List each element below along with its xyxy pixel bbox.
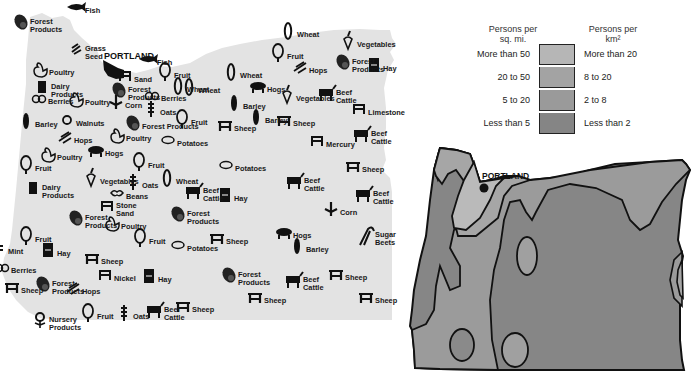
- product-label: Limestone: [368, 108, 405, 117]
- product-label: Corn: [340, 208, 358, 217]
- product-label: Hogs: [267, 85, 285, 94]
- barley-icon: [253, 109, 259, 125]
- dairy-icon: [29, 182, 37, 194]
- barley-icon: [231, 95, 237, 111]
- product-label: Mercury: [326, 140, 356, 149]
- product-label: Barley: [35, 120, 58, 129]
- product-label: Fruit: [149, 237, 166, 246]
- product-label: Fruit: [174, 71, 191, 80]
- product-label: Sheep: [362, 165, 385, 174]
- product-label: Hops: [309, 66, 327, 75]
- product-label: Sheep: [375, 296, 398, 305]
- product-label: SugarBeets: [375, 230, 396, 247]
- barley-icon: [294, 238, 300, 254]
- product-label: Sheep: [293, 119, 316, 128]
- product-label: Fish: [85, 6, 101, 15]
- density-island-2: [450, 329, 474, 361]
- product-label: Hay: [234, 194, 248, 203]
- product-label: Vegetables: [296, 94, 335, 103]
- product-label: Oats: [142, 181, 158, 190]
- product-label: Wheat: [297, 30, 320, 39]
- product-label: Sheep: [21, 286, 44, 295]
- products-map: FishForestProductsGrassSeedPoultryDairyP…: [0, 0, 420, 382]
- product-label: Oats: [133, 312, 149, 321]
- product-label: Fruit: [97, 312, 114, 321]
- product-label: Poultry: [121, 222, 147, 231]
- product-label: Berries: [48, 97, 73, 106]
- legend-header-km2: Persons per km²: [578, 25, 648, 44]
- product-label: Fruit: [148, 161, 165, 170]
- log-icon: [12, 12, 30, 32]
- product-label: Mint: [8, 247, 24, 256]
- product-label: Vegetables: [357, 40, 396, 49]
- product-label: Barley: [306, 245, 329, 254]
- wheat-icon: [285, 23, 291, 39]
- legend-label-km2: Less than 2: [584, 118, 631, 128]
- product-label: GrassSeed: [85, 44, 106, 61]
- legend-label-sq-mi: Less than 5: [483, 118, 530, 128]
- product-label: NurseryProducts: [49, 315, 81, 332]
- product-label: Wheat: [187, 85, 210, 94]
- product-label: Hogs: [293, 231, 311, 240]
- product-label: Sand: [134, 75, 153, 84]
- legend-swatch: [539, 44, 575, 65]
- product-label: Wheat: [240, 71, 263, 80]
- product-label: Hay: [158, 275, 172, 284]
- product-label: Potatoes: [187, 244, 218, 253]
- product-label: Fish: [157, 58, 173, 67]
- hay-icon: [43, 243, 53, 257]
- legend-swatch: [539, 90, 575, 111]
- product-label: Berries: [161, 94, 186, 103]
- barley-icon: [23, 113, 29, 129]
- legend-label-km2: More than 20: [584, 49, 637, 59]
- product-label: StoneSand: [116, 201, 137, 218]
- product-label: Poultry: [49, 68, 75, 77]
- density-portland-label: PORTLAND: [482, 171, 529, 181]
- product-label: Potatoes: [177, 139, 208, 148]
- product-label: Hops: [82, 287, 100, 296]
- product-label: Sheep: [226, 237, 249, 246]
- legend-swatch: [539, 113, 575, 134]
- product-label: Wheat: [176, 177, 199, 186]
- legend-label-km2: 8 to 20: [584, 72, 612, 82]
- product-label: Fruit: [35, 164, 52, 173]
- product-label: Poultry: [57, 153, 83, 162]
- product-label: Sheep: [345, 273, 368, 282]
- product-label: Beans: [126, 192, 148, 201]
- product-label: Sheep: [264, 296, 287, 305]
- product-label: Hay: [383, 64, 397, 73]
- product-label: Barley: [265, 116, 288, 125]
- hay-icon: [144, 269, 154, 283]
- portland-label: PORTLAND: [104, 51, 154, 61]
- density-island-1: [517, 237, 537, 275]
- legend-label-sq-mi: 5 to 20: [502, 95, 530, 105]
- product-label: BeefCattle: [371, 129, 392, 146]
- product-label: Hay: [57, 249, 71, 258]
- product-label: Sheep: [234, 124, 257, 133]
- product-label: Poultry: [85, 98, 111, 107]
- product-label: Walnuts: [76, 119, 104, 128]
- density-island-3: [502, 333, 528, 367]
- product-label: Sheep: [192, 305, 215, 314]
- product-label: Fruit: [287, 52, 304, 61]
- mint-icon: [0, 242, 3, 254]
- legend-label-km2: 2 to 8: [584, 95, 607, 105]
- density-map: PORTLAND: [400, 140, 699, 382]
- dairy-icon: [38, 81, 46, 93]
- product-label: Potatoes: [235, 164, 266, 173]
- product-label: Nickel: [114, 274, 136, 283]
- legend-header-sq-mi: Persons per sq. mi.: [477, 25, 549, 44]
- product-label: Corn: [125, 101, 143, 110]
- portland-dot: [480, 184, 489, 193]
- product-label: Sheep: [101, 257, 124, 266]
- fish-icon: [67, 2, 86, 12]
- product-label: Barley: [243, 102, 266, 111]
- legend-label-sq-mi: 20 to 50: [497, 72, 530, 82]
- legend-swatch: [539, 67, 575, 88]
- product-label: Oats: [160, 108, 176, 117]
- product-label: Fruit: [35, 235, 52, 244]
- product-label: Fruit: [191, 118, 208, 127]
- product-label: Hops: [74, 136, 92, 145]
- product-label: Poultry: [126, 134, 152, 143]
- product-label: Berries: [11, 266, 36, 275]
